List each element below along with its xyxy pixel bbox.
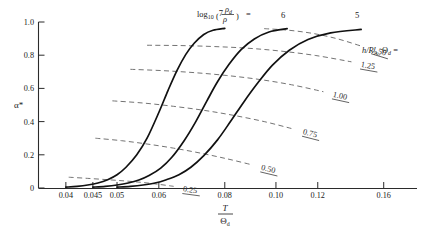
x-tick-label-group: 0.040.0450.050.060.080.100.120.16 [59, 191, 391, 200]
y-tick-label: 0.8 [24, 51, 34, 60]
y-tick-label: 1.0 [24, 18, 34, 27]
x-tick-label: 0.08 [218, 191, 232, 200]
family-formula-paren-left: ( [216, 12, 219, 21]
y-tick-group [39, 22, 45, 188]
x-axis-label: T Θd [218, 203, 233, 227]
x-tick-label: 0.10 [269, 191, 283, 200]
iso-curve-label: 0.75 [302, 127, 321, 140]
density-curve [117, 29, 361, 187]
x-axis-label-numerator: T [222, 203, 228, 213]
iso-curve [112, 101, 293, 129]
x-tick-label: 0.06 [152, 191, 166, 200]
family-formula-denominator: ρ [222, 15, 227, 24]
y-tick-label: 0.6 [24, 84, 34, 93]
iso-curve-label-text: 1.00 [332, 90, 348, 102]
iso-curve-group [69, 29, 363, 187]
family-formula-equals: = [246, 10, 251, 19]
x-tick-label: 0.04 [59, 191, 73, 200]
family-formula-log: log10 [197, 10, 214, 20]
x-axis-label-denominator: Θd [220, 216, 230, 227]
density-curve [66, 28, 225, 187]
iso-curve-label: 1.00 [332, 90, 351, 103]
alpha-star-vs-temperature-chart: 00.20.40.60.81.0 0.040.0450.050.060.080.… [0, 0, 429, 237]
y-axis-label: α* [14, 100, 24, 110]
y-tick-label: 0 [30, 184, 34, 193]
iso-curve-label-text: 0.50 [260, 163, 276, 175]
iso-curve [130, 69, 323, 91]
density-curve-label-group: 765 [219, 8, 360, 20]
iso-curve-label-group: 0.250.500.751.001.251.50 [182, 45, 390, 196]
family-formula-numerator: ρd [224, 5, 232, 15]
density-curve-label: 5 [355, 10, 359, 20]
iso-curve-label: 0.50 [260, 163, 279, 176]
iso-curve-label: 1.25 [360, 60, 379, 72]
iso-curve-label-text: 0.75 [302, 127, 318, 139]
family-formula-paren-right: ) [236, 12, 239, 21]
density-curve-group [66, 28, 361, 187]
y-tick-label-group: 00.20.40.60.81.0 [24, 18, 34, 193]
iso-legend-label: h/RA₂ Θd = [362, 46, 398, 56]
y-tick-label: 0.2 [24, 151, 34, 160]
x-tick-label: 0.05 [110, 191, 124, 200]
x-tick-label: 0.12 [311, 191, 325, 200]
x-tick-label: 0.045 [84, 191, 102, 200]
figure-caption [0, 227, 429, 237]
iso-curve [147, 45, 351, 62]
axis-lines [39, 22, 418, 189]
x-tick-label: 0.16 [377, 191, 391, 200]
figure-container: 00.20.40.60.81.0 0.040.0450.050.060.080.… [0, 0, 429, 237]
iso-curve-label: 0.25 [182, 184, 201, 195]
y-axis-label-alpha: α* [14, 100, 24, 110]
iso-curve [95, 138, 251, 165]
family-formula: log10 ( ρd ρ ) = [197, 5, 251, 24]
y-tick-label: 0.4 [24, 118, 34, 127]
iso-legend-text: h/RA₂ Θd = [362, 46, 398, 56]
density-curve-label: 6 [281, 10, 286, 20]
